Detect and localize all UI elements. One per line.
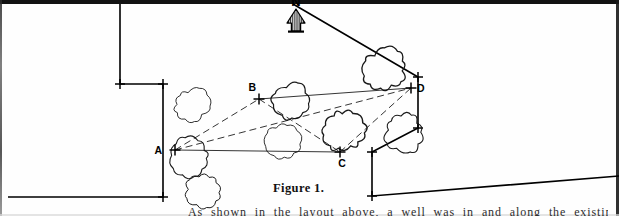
survey-station-a: A <box>154 144 180 156</box>
survey-line-group <box>175 88 411 152</box>
north-arrow-icon: N <box>287 0 305 33</box>
bush-symbol <box>174 88 211 123</box>
boundary-marker <box>158 79 168 89</box>
station-label-b: B <box>248 81 256 93</box>
bush-symbol <box>264 124 302 159</box>
boundary-marker <box>158 192 168 202</box>
station-label-d: D <box>417 82 425 94</box>
property-boundary <box>8 4 619 197</box>
station-label-a: A <box>154 144 162 156</box>
station-label-c: C <box>338 157 346 169</box>
survey-line-CD <box>340 88 411 152</box>
boundary-marker <box>367 191 377 201</box>
survey-line-AC <box>175 150 340 152</box>
station-cross-icon <box>254 94 265 105</box>
bush-symbol <box>170 136 208 179</box>
boundary-marker <box>367 147 377 157</box>
body-text-clipped: As shown in the layout above, a well was… <box>188 205 608 216</box>
figure-caption: Figure 1. <box>273 181 324 196</box>
survey-line-AB <box>175 99 259 150</box>
survey-line-AD <box>175 88 411 150</box>
bush-symbol <box>271 82 310 120</box>
bush-symbol <box>362 46 405 91</box>
survey-line-BD <box>259 88 411 99</box>
figure-page: ABCD N Figure 1. As shown in the layout … <box>0 0 619 216</box>
boundary-marker-group <box>115 72 423 202</box>
boundary-line-left <box>8 4 163 197</box>
north-label: N <box>291 0 300 9</box>
bush-symbol <box>185 174 220 209</box>
survey-station-d: D <box>406 82 426 94</box>
boundary-marker <box>115 79 125 89</box>
boundary-marker <box>413 72 423 82</box>
